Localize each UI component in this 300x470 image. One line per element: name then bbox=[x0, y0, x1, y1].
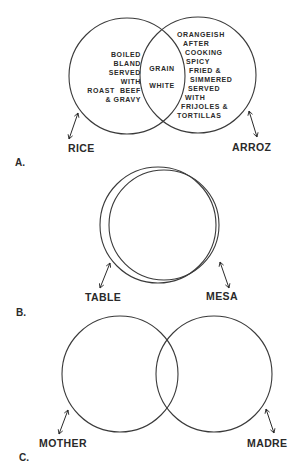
double-arrow-icon bbox=[69, 113, 78, 139]
table-circle bbox=[100, 167, 216, 283]
arroz-attr: SIMMERED bbox=[190, 76, 233, 83]
section-label-b: B. bbox=[16, 307, 26, 318]
rice-attr: BLAND bbox=[114, 60, 142, 67]
table-label: TABLE bbox=[85, 291, 121, 303]
arroz-attr: AFTER bbox=[183, 40, 209, 47]
rice-attr: & GRAVY bbox=[105, 96, 141, 103]
section-label-c: C. bbox=[19, 452, 29, 463]
arroz-label: ARROZ bbox=[232, 141, 272, 153]
double-arrow-icon bbox=[266, 409, 274, 433]
overlap-text: GRAIN WHITE bbox=[149, 65, 175, 89]
rice-only-text: BOILED BLAND SERVED WITH ROAST BEEF & GR… bbox=[87, 51, 141, 103]
arroz-attr: FRIJOLES & bbox=[181, 103, 228, 110]
rice-label: RICE bbox=[68, 142, 95, 154]
arroz-attr: SPICY bbox=[186, 58, 210, 65]
double-arrow-icon bbox=[100, 263, 110, 288]
double-arrow-icon bbox=[59, 410, 68, 434]
double-arrow-icon bbox=[249, 111, 257, 137]
section-label-a: A. bbox=[15, 157, 25, 168]
shared-attr: GRAIN bbox=[149, 65, 175, 72]
diagram-c: MOTHER MADRE C. bbox=[19, 316, 288, 463]
mesa-circle bbox=[109, 170, 219, 280]
double-arrow-icon bbox=[220, 262, 229, 288]
mother-label: MOTHER bbox=[39, 437, 87, 449]
diagram-b: TABLE MESA B. bbox=[16, 167, 238, 318]
venn-diagram-figure: BOILED BLAND SERVED WITH ROAST BEEF & GR… bbox=[0, 0, 300, 470]
mesa-label: MESA bbox=[206, 290, 238, 302]
rice-attr: BOILED bbox=[111, 51, 141, 58]
arroz-attr: COOKING bbox=[185, 49, 223, 56]
rice-attr: ROAST BEEF bbox=[87, 87, 141, 94]
rice-circle bbox=[69, 18, 185, 134]
diagram-a: BOILED BLAND SERVED WITH ROAST BEEF & GR… bbox=[15, 17, 272, 168]
arroz-attr: FRIED & bbox=[189, 67, 221, 74]
arroz-attr: TORTILLAS bbox=[177, 112, 222, 119]
rice-attr: WITH bbox=[121, 78, 141, 85]
mother-circle bbox=[62, 316, 178, 432]
shared-attr: WHITE bbox=[149, 82, 175, 89]
arroz-attr: ORANGEISH bbox=[177, 31, 225, 38]
arroz-attr: SERVED bbox=[188, 85, 220, 92]
madre-label: MADRE bbox=[247, 437, 288, 449]
arroz-attr: WITH bbox=[185, 94, 205, 101]
madre-circle bbox=[156, 316, 272, 432]
rice-attr: SERVED bbox=[109, 69, 141, 76]
